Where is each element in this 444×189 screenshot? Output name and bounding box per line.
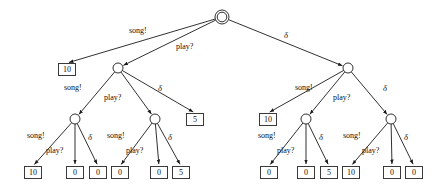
decision-node-n-ll[interactable] [70, 114, 80, 124]
edge-label-lbl-ll-delta: δ [88, 133, 92, 142]
decision-node-n-rr[interactable] [386, 114, 396, 124]
edge-ll-delta [77, 123, 97, 164]
edge-label-lbl-ll-play: play? [46, 146, 63, 155]
payoff-leaf-leaf-rl-song: 0 [260, 166, 278, 179]
edge-label-lbl-r-delta: δ [383, 84, 387, 93]
edge-label-lbl-rr-play: play? [362, 146, 379, 155]
payoff-leaf-leaf-l-delta: 5 [186, 113, 204, 126]
edge-label-lbl-ll-song: song! [27, 131, 45, 140]
payoff-leaf-leaf-ll-delta: 0 [89, 166, 107, 179]
edge-label-lbl-root-song: song! [129, 26, 147, 35]
edge-root-delta [228, 20, 342, 66]
edge-label-lbl-lr-play: play? [126, 146, 143, 155]
payoff-leaf-leaf-ll-play: 0 [66, 166, 84, 179]
payoff-leaf-leaf-root-song: 10 [58, 63, 76, 76]
edge-label-lbl-l-song: song! [64, 83, 82, 92]
edge-label-lbl-lr-song: song! [107, 131, 125, 140]
edge-rr-play [391, 124, 392, 164]
edge-lr-delta [157, 123, 180, 164]
edge-label-lbl-rr-song: song! [343, 131, 361, 140]
edge-rr-delta [393, 123, 413, 164]
edge-lr-song [121, 123, 152, 164]
payoff-leaf-leaf-rr-play: 0 [383, 166, 401, 179]
payoff-leaf-leaf-rr-song: 10 [342, 166, 360, 179]
edge-label-lbl-lr-delta: δ [168, 133, 172, 142]
edge-group [34, 19, 413, 165]
edge-rr-song [352, 123, 387, 165]
root-node-inner-circle [217, 12, 227, 22]
edge-lr-play [155, 124, 158, 164]
edge-label-lbl-rr-delta: δ [404, 133, 408, 142]
payoff-leaf-leaf-lr-song: 0 [111, 166, 129, 179]
payoff-leaf-leaf-rl-delta: 5 [320, 166, 338, 179]
decision-node-n-lr[interactable] [150, 114, 160, 124]
decision-node-n-rl[interactable] [301, 114, 311, 124]
payoff-leaf-leaf-lr-play: 0 [150, 166, 168, 179]
edge-label-lbl-root-play: play? [176, 42, 193, 51]
edge-ll-song [34, 123, 71, 165]
edge-rl-song [270, 123, 303, 164]
decision-node-n-l[interactable] [113, 63, 123, 73]
edge-label-lbl-root-delta: δ [284, 31, 288, 40]
payoff-leaf-leaf-lr-delta: 5 [172, 166, 190, 179]
edge-label-lbl-r-song: song! [295, 83, 313, 92]
game-tree-figure: 1051010000050051000 song!play?δsong!play… [0, 0, 444, 189]
payoff-leaf-leaf-ll-song: 10 [24, 166, 42, 179]
node-group [70, 10, 396, 124]
edge-label-lbl-rl-play: play? [277, 146, 294, 155]
decision-node-n-r[interactable] [343, 63, 353, 73]
payoff-leaf-leaf-rl-play: 0 [297, 166, 315, 179]
edge-label-lbl-r-play: play? [333, 93, 350, 102]
payoff-leaf-leaf-rr-delta: 0 [405, 166, 423, 179]
payoff-leaf-leaf-r-song: 10 [259, 113, 277, 126]
edge-rl-delta [308, 123, 328, 164]
edge-r-delta [351, 72, 387, 115]
tree-edges-canvas [0, 0, 444, 189]
edge-label-lbl-rl-delta: δ [319, 133, 323, 142]
edge-label-lbl-rl-song: song! [258, 131, 276, 140]
edge-label-lbl-l-play: play? [104, 93, 121, 102]
edge-label-lbl-l-delta: δ [158, 84, 162, 93]
